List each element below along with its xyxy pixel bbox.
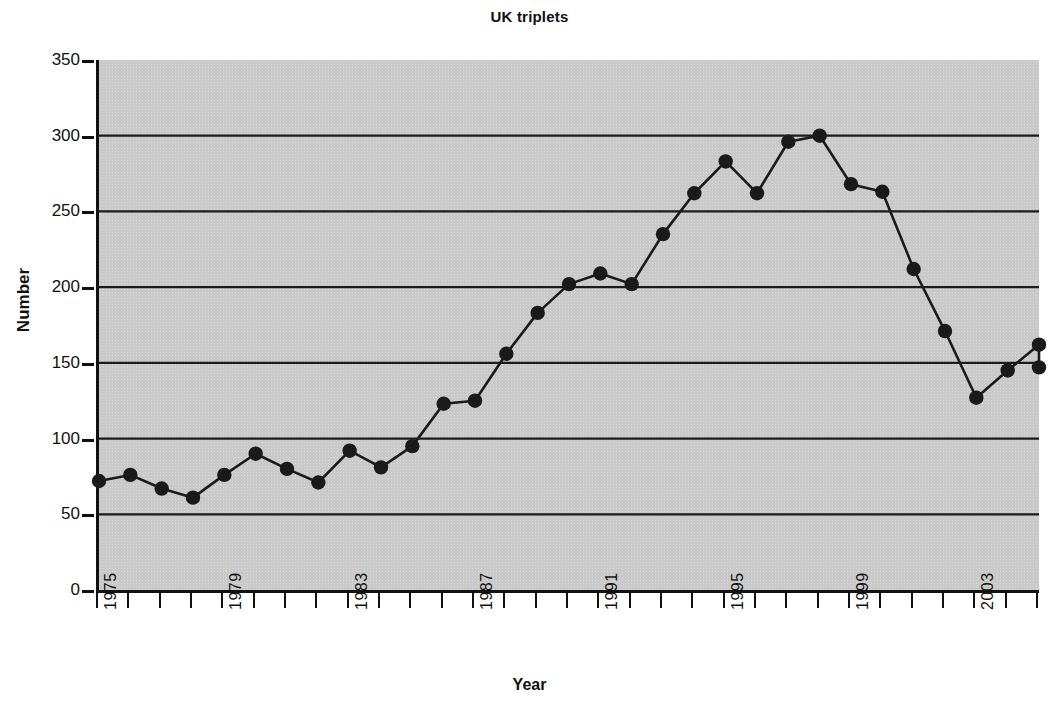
x-tick-mark	[409, 593, 411, 608]
data-point	[656, 227, 670, 241]
data-point	[624, 277, 638, 291]
data-point	[248, 447, 262, 461]
x-tick-mark	[660, 593, 662, 608]
y-tick-mark	[82, 60, 94, 63]
x-tick-mark	[472, 593, 474, 608]
x-tick-mark	[629, 593, 631, 608]
x-tick-mark	[848, 593, 850, 608]
data-point	[217, 468, 231, 482]
data-point	[812, 129, 826, 143]
y-tick-mark	[82, 363, 94, 366]
x-tick-label: 1975	[102, 572, 120, 610]
x-tick-mark	[879, 593, 881, 608]
x-tick-mark	[754, 593, 756, 608]
chart-figure: UK triplets Number 350300250200150100500…	[0, 0, 1059, 720]
data-point	[530, 306, 544, 320]
data-point	[468, 394, 482, 408]
x-tick-mark	[1036, 593, 1038, 608]
y-tick-label: 250	[52, 201, 80, 221]
y-tick-mark	[82, 590, 94, 593]
data-point	[1032, 360, 1046, 374]
y-tick-label: 100	[52, 429, 80, 449]
data-markers	[92, 129, 1046, 505]
x-tick-mark	[535, 593, 537, 608]
x-tick-label: 1991	[603, 572, 621, 610]
data-point	[844, 177, 858, 191]
x-tick-label: 1987	[478, 572, 496, 610]
data-point	[1000, 363, 1014, 377]
data-point	[781, 135, 795, 149]
data-point	[342, 443, 356, 457]
y-tick-label: 300	[52, 126, 80, 146]
x-tick-mark	[221, 593, 223, 608]
data-point	[311, 475, 325, 489]
x-tick-label: 1983	[353, 572, 371, 610]
x-tick-mark	[817, 593, 819, 608]
data-point	[875, 185, 889, 199]
data-plot	[99, 60, 1039, 590]
data-point	[154, 481, 168, 495]
data-point	[938, 324, 952, 338]
y-tick-mark	[82, 439, 94, 442]
y-tick-label: 0	[71, 580, 80, 600]
x-tick-mark	[253, 593, 255, 608]
x-tick-label: 1995	[729, 572, 747, 610]
x-tick-mark	[691, 593, 693, 608]
data-point	[718, 154, 732, 168]
x-tick-mark	[190, 593, 192, 608]
data-point	[92, 474, 106, 488]
y-tick-mark	[82, 211, 94, 214]
x-tick-mark	[159, 593, 161, 608]
data-point	[405, 439, 419, 453]
data-point	[280, 462, 294, 476]
data-point	[374, 460, 388, 474]
data-point	[436, 397, 450, 411]
x-tick-mark	[566, 593, 568, 608]
x-axis-tick-labels: 19751979198319871991199519992003	[96, 610, 1036, 670]
y-tick-label: 150	[52, 353, 80, 373]
x-tick-mark	[378, 593, 380, 608]
x-tick-mark	[441, 593, 443, 608]
x-tick-mark	[942, 593, 944, 608]
x-tick-label: 1999	[854, 572, 872, 610]
x-tick-mark	[911, 593, 913, 608]
y-tick-mark	[82, 287, 94, 290]
plot-area	[96, 60, 1039, 593]
x-tick-mark	[284, 593, 286, 608]
y-tick-mark	[82, 136, 94, 139]
x-tick-mark	[127, 593, 129, 608]
x-tick-mark	[597, 593, 599, 608]
y-axis-tick-labels: 350300250200150100500	[0, 60, 80, 590]
x-tick-mark	[315, 593, 317, 608]
data-point	[750, 186, 764, 200]
data-point	[593, 266, 607, 280]
data-point	[562, 277, 576, 291]
x-tick-mark	[347, 593, 349, 608]
y-tick-label: 50	[61, 504, 80, 524]
x-tick-mark	[96, 593, 98, 608]
y-tick-mark	[82, 514, 94, 517]
data-point	[906, 262, 920, 276]
data-line	[99, 136, 1039, 498]
x-tick-mark	[503, 593, 505, 608]
data-point	[687, 186, 701, 200]
x-tick-mark	[1005, 593, 1007, 608]
x-tick-label: 2003	[979, 572, 997, 610]
data-point	[186, 490, 200, 504]
x-tick-mark	[723, 593, 725, 608]
x-tick-mark	[785, 593, 787, 608]
x-axis-title: Year	[0, 676, 1059, 694]
data-point	[969, 390, 983, 404]
data-point	[123, 468, 137, 482]
data-point	[499, 347, 513, 361]
chart-title: UK triplets	[0, 8, 1059, 25]
x-tick-mark	[973, 593, 975, 608]
data-point	[1032, 337, 1046, 351]
x-tick-label: 1979	[227, 572, 245, 610]
y-tick-label: 200	[52, 277, 80, 297]
y-tick-label: 350	[52, 50, 80, 70]
